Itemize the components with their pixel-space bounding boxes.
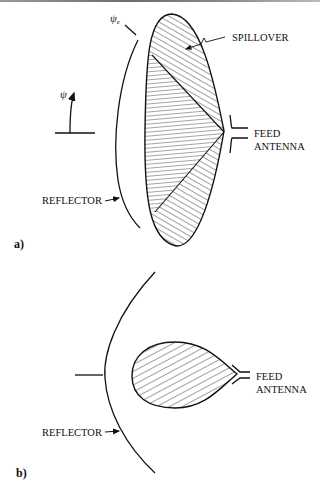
panel-label-b: b) (16, 466, 27, 480)
edge-angle-tick (125, 25, 136, 35)
feed-antenna-a (230, 115, 248, 153)
antenna-spillover-diagram: ψe ψ SPILLOVER FEED ANTENNA REFLECTOR a) (0, 0, 320, 490)
psi-arrow (70, 93, 74, 133)
reflector-label-b: REFLECTOR (42, 427, 102, 438)
edge-angle-label: ψe (110, 12, 120, 26)
panel-label-a: a) (14, 237, 24, 251)
feed-label-b-line1: FEED (256, 371, 283, 382)
feed-pattern-lobe (132, 342, 237, 408)
reflector-label-a: REFLECTOR (42, 195, 102, 206)
psi-label: ψ (60, 88, 67, 100)
feed-label-a-line1: FEED (254, 128, 281, 139)
radiation-lobe (140, 10, 230, 250)
panel-a: ψe ψ SPILLOVER FEED ANTENNA REFLECTOR a) (14, 10, 305, 251)
panel-b: FEED ANTENNA REFLECTOR b) (16, 272, 307, 480)
reflector-arc (116, 40, 140, 228)
feed-label-a-line2: ANTENNA (254, 141, 305, 152)
spillover-label: SPILLOVER (232, 32, 289, 43)
feed-label-b-line2: ANTENNA (256, 384, 307, 395)
